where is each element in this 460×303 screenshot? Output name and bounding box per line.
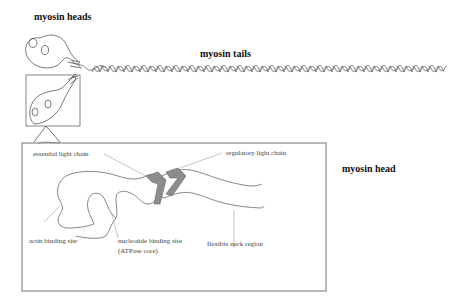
lower-myosin-head [26, 74, 80, 142]
label-actin-binding-site: actin binding site [29, 237, 77, 246]
label-regulatory-light-chain: regulatory light chain [226, 149, 286, 158]
label-flexible-neck-region: flexible neck region [207, 240, 263, 249]
myosin-tails [78, 65, 446, 72]
title-myosin-tails: myosin tails [200, 48, 251, 59]
upper-myosin-head [26, 35, 82, 68]
light-chains [146, 168, 186, 204]
title-myosin-head: myosin head [342, 163, 396, 174]
detail-box [22, 142, 326, 291]
label-atpase-core: (ATPase core) [118, 247, 158, 256]
label-essential-light-chain: essential light chain [33, 150, 89, 159]
essential-light-chain-shape [146, 172, 166, 204]
title-myosin-heads: myosin heads [34, 11, 92, 22]
leader-lines [44, 153, 234, 248]
label-nucleotide-binding-site: nucleotide binding site [118, 237, 182, 246]
regulatory-light-chain-shape [166, 168, 186, 196]
